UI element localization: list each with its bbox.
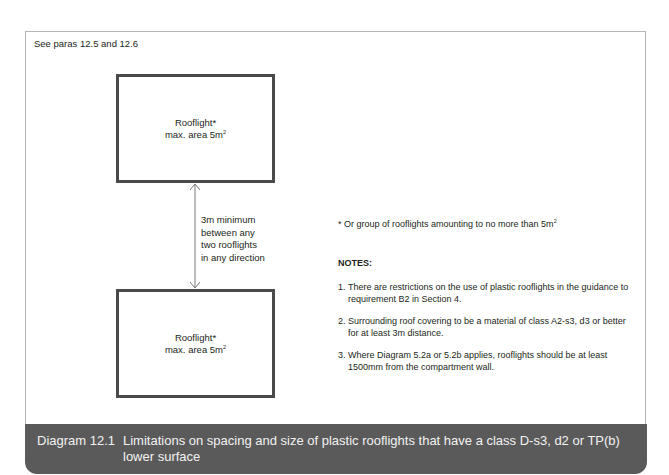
double-arrow-icon <box>189 183 201 289</box>
rooflight-box-top: Rooflight* max. area 5m2 <box>116 74 275 183</box>
note-text: Surrounding roof covering to be a materi… <box>348 315 638 339</box>
caption-number: Diagram 12.1 <box>37 433 115 449</box>
rooflight-label-top: Rooflight* max. area 5m2 <box>119 117 272 141</box>
note-number: 3. <box>338 349 348 373</box>
rooflight-title: Rooflight* <box>119 332 272 344</box>
spacing-line: between any <box>201 227 265 240</box>
note-number: 1. <box>338 281 348 305</box>
spacing-label: 3m minimum between any two rooflights in… <box>201 214 265 264</box>
note-item: 1. There are restrictions on the use of … <box>338 281 638 305</box>
note-item: 2. Surrounding roof covering to be a mat… <box>338 315 638 339</box>
notes-list: 1. There are restrictions on the use of … <box>338 281 638 383</box>
note-number: 2. <box>338 315 348 339</box>
note-item: 3. Where Diagram 5.2a or 5.2b applies, r… <box>338 349 638 373</box>
caption-text: Limitations on spacing and size of plast… <box>123 433 633 465</box>
diagram-caption: Diagram 12.1 Limitations on spacing and … <box>25 424 647 474</box>
spacing-line: in any direction <box>201 252 265 265</box>
note-text: There are restrictions on the use of pla… <box>348 281 638 305</box>
spacing-line: two rooflights <box>201 239 265 252</box>
see-paras-reference: See paras 12.5 and 12.6 <box>34 38 138 49</box>
note-text: Where Diagram 5.2a or 5.2b applies, roof… <box>348 349 638 373</box>
footnote: * Or group of rooflights amounting to no… <box>338 219 557 229</box>
rooflight-title: Rooflight* <box>119 117 272 129</box>
spacing-line: 3m minimum <box>201 214 265 227</box>
rooflight-label-bottom: Rooflight* max. area 5m2 <box>119 332 272 356</box>
rooflight-box-bottom: Rooflight* max. area 5m2 <box>116 289 275 398</box>
notes-heading: NOTES: <box>338 258 372 268</box>
rooflight-area: max. area 5m2 <box>119 129 272 141</box>
rooflight-area: max. area 5m2 <box>119 344 272 356</box>
